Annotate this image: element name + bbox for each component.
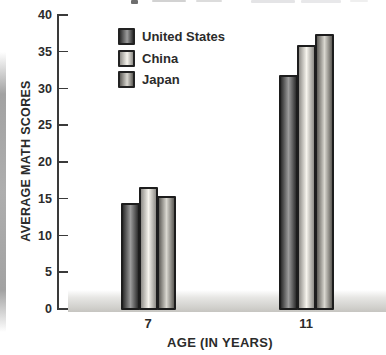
title-remnant-mark xyxy=(350,0,368,2)
title-remnant-mark xyxy=(251,0,295,3)
title-remnant-mark xyxy=(131,0,138,4)
y-tick-mark xyxy=(57,271,68,273)
legend-label: Japan xyxy=(142,72,180,87)
legend-label: United States xyxy=(142,29,225,44)
y-tick-mark xyxy=(57,14,68,16)
y-tick-mark xyxy=(57,161,68,163)
japan-swatch-icon xyxy=(118,71,135,88)
y-tick-mark xyxy=(57,51,68,53)
title-remnant-mark xyxy=(152,0,186,2)
page-edge-shadow xyxy=(0,52,6,332)
united-states-swatch-icon xyxy=(118,28,135,45)
title-remnant-mark xyxy=(301,0,341,3)
bar-japan-age-7 xyxy=(157,196,176,310)
baseline-shading-band xyxy=(68,290,386,312)
y-tick-label: 10 xyxy=(22,229,52,243)
legend: United States China Japan xyxy=(118,26,225,91)
bar-japan-age-11 xyxy=(315,34,334,310)
y-tick-label: 20 xyxy=(22,155,52,169)
bar-china-age-7 xyxy=(139,187,158,310)
y-tick-mark xyxy=(57,308,68,310)
legend-item-united-states: United States xyxy=(118,26,225,48)
bar-united-states-age-7 xyxy=(121,203,140,310)
math-scores-bar-chart: AVERAGE MATH SCORES 4035302520151050 711… xyxy=(0,0,386,355)
legend-item-china: China xyxy=(118,48,225,70)
y-tick-mark xyxy=(57,124,68,126)
y-tick-label: 40 xyxy=(22,8,52,22)
y-tick-label: 35 xyxy=(22,45,52,59)
legend-label: China xyxy=(142,51,178,66)
china-swatch-icon xyxy=(118,50,135,67)
y-tick-label: 30 xyxy=(22,82,52,96)
y-tick-mark xyxy=(57,88,68,90)
y-tick-label: 15 xyxy=(22,192,52,206)
x-tick-label-11: 11 xyxy=(276,316,336,331)
title-remnant-mark xyxy=(196,0,222,2)
bar-china-age-11 xyxy=(297,45,316,310)
y-tick-label: 25 xyxy=(22,118,52,132)
y-tick-label: 5 xyxy=(22,265,52,279)
y-tick-mark xyxy=(57,198,68,200)
y-tick-label: 0 xyxy=(22,302,52,316)
legend-item-japan: Japan xyxy=(118,69,225,91)
y-tick-mark xyxy=(57,235,68,237)
x-axis-title: AGE (IN YEARS) xyxy=(120,335,320,350)
x-tick-label-7: 7 xyxy=(118,316,178,331)
bar-united-states-age-11 xyxy=(279,75,298,310)
